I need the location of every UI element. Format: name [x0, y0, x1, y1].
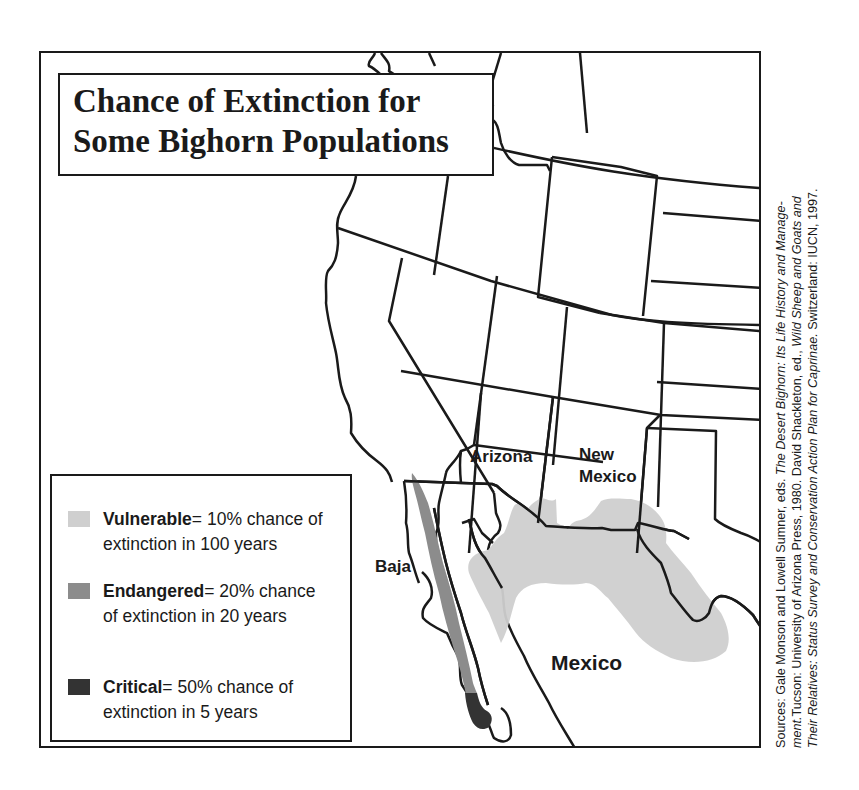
pacific-coast [326, 176, 392, 482]
legend-term: Critical [103, 677, 162, 697]
source-line-3: Their Relatives: Status Survey and Conse… [805, 48, 821, 748]
source-line-2: ment.Tucson: University of Arizona Press… [789, 48, 805, 748]
swatch-critical [68, 679, 90, 695]
legend-item-vulnerable: Vulnerable= 10% chance of extinction in … [68, 507, 333, 557]
title-box: Chance of Extinction for Some Bighorn Po… [58, 73, 494, 176]
label-mexico: Mexico [551, 651, 622, 675]
label-new-mexico-line1: New [579, 445, 614, 465]
swatch-vulnerable [68, 511, 90, 527]
source-line-1: Sources: Gale Monson and Lowell Sumner, … [773, 48, 789, 748]
label-new-mexico-line2: Mexico [579, 467, 637, 487]
legend: Vulnerable= 10% chance of extinction in … [50, 474, 352, 742]
label-arizona: Arizona [470, 447, 532, 467]
critical-region [465, 693, 492, 729]
map-frame: Chance of Extinction for Some Bighorn Po… [39, 51, 761, 748]
title-line-2: Some Bighorn Populations [73, 121, 492, 161]
swatch-endangered [68, 583, 90, 599]
legend-item-critical: Critical= 50% chance of extinction in 5 … [68, 675, 333, 725]
label-baja: Baja [375, 557, 411, 577]
endangered-region [412, 473, 477, 695]
source-note: Sources: Gale Monson and Lowell Sumner, … [773, 48, 821, 748]
legend-term: Endangered [103, 581, 204, 601]
title-line-1: Chance of Extinction for [73, 81, 492, 121]
legend-item-endangered: Endangered= 20% chance of extinction in … [68, 579, 333, 629]
legend-term: Vulnerable [103, 509, 192, 529]
vulnerable-region [468, 498, 729, 662]
